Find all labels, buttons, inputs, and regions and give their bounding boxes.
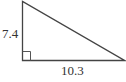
horizontal-leg-label: 10.3 [61, 64, 84, 77]
right-angle-marker [23, 52, 31, 61]
triangle-outline [23, 2, 125, 61]
vertical-leg-label: 7.4 [2, 27, 18, 40]
right-triangle-diagram: 7.4 10.3 [0, 0, 126, 82]
